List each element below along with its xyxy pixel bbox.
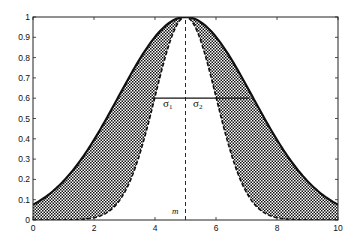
y-tick-label: 0.5 <box>18 114 30 124</box>
sigma1-label: σ1 <box>163 97 173 111</box>
y-tick-label: 0.4 <box>18 134 30 144</box>
y-tick-label: 0.8 <box>18 53 30 63</box>
x-tick-label: 8 <box>275 223 280 233</box>
y-tick-label: 0.7 <box>18 73 30 83</box>
y-tick-label: 0.6 <box>18 93 30 103</box>
y-tick-label: 0.9 <box>18 32 30 42</box>
y-tick-label: 0.2 <box>18 174 30 184</box>
y-tick-label: 0.3 <box>18 154 30 164</box>
x-tick-label: 2 <box>92 223 97 233</box>
x-tick-label: 10 <box>333 223 343 233</box>
y-tick-label: 0 <box>25 215 30 225</box>
membership-chart: 0246810 00.10.20.30.40.50.60.70.80.91 σ1… <box>0 0 356 242</box>
x-tick-label: 0 <box>31 223 36 233</box>
y-tick-label: 0.1 <box>18 195 30 205</box>
annotations: σ1 σ2 m <box>163 97 203 216</box>
mean-label: m <box>172 206 179 216</box>
sigma2-label: σ2 <box>193 97 203 111</box>
x-tick-label: 4 <box>153 223 158 233</box>
y-tick-label: 1 <box>25 12 30 22</box>
x-tick-label: 6 <box>214 223 219 233</box>
